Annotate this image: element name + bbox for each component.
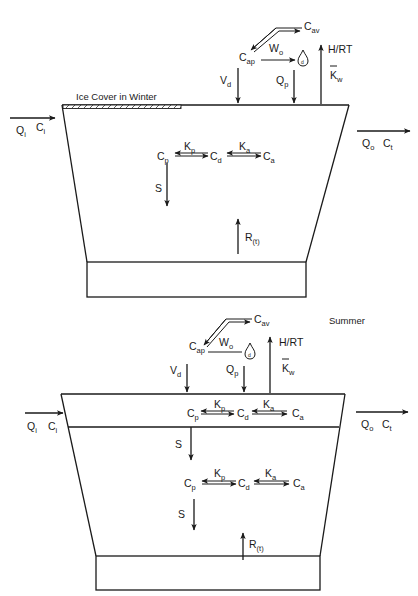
inflow-q-label: Qi [16,124,26,139]
lake-model-diagram: Ice Cover in Winter Qi Ci Qo Ct Cav Cap … [0,0,418,596]
hrt-label: H/RT [328,43,353,55]
ice-cover-label: Ice Cover in Winter [76,91,157,102]
vd-label: Vd [170,364,181,379]
basin-left-wall [62,105,87,262]
wo-label: Wo [219,336,233,351]
cav-label: Cav [304,20,320,35]
vd-label: Vd [220,74,231,89]
sediment-layer [87,262,306,297]
ca-label: Ca [263,150,276,165]
rain-drop-glyph: d [301,59,304,65]
outflow-q-label: Qo [361,418,373,433]
sediment-layer [96,556,320,590]
r-label: R(t) [249,538,264,553]
epi-s-label: S [175,438,182,450]
inflow-c-label: Ci [48,420,58,435]
kw-label: Kw [282,362,295,377]
rain-drop-glyph: d [248,352,251,358]
outflow-c-label: Ct [383,137,394,152]
epi-cp-label: Cp [187,407,199,422]
outflow-c-label: Ct [382,418,393,433]
cd-label: Cd [210,150,222,165]
basin-right-wall [320,394,345,556]
epi-ca-label: Ca [292,407,305,422]
cp-label: Cp [157,150,169,165]
wo-label: Wo [269,42,283,57]
cap-label: Cap [239,51,255,66]
hypo-ka-label: Ka [265,467,277,482]
hypo-cp-label: Cp [184,477,196,492]
basin-left-wall [61,394,96,556]
cav-label: Cav [254,313,270,328]
inflow-q-label: Qi [27,420,37,435]
qp-label: Qp [276,74,288,89]
hypo-kp-label: Kp [214,467,225,482]
winter-panel: Ice Cover in Winter Qi Ci Qo Ct Cav Cap … [10,20,410,297]
summer-panel: Summer Qi Ci Qo Ct Cav Cap Wo d Vd Qp H/… [25,313,408,590]
kw-label: Kw [330,69,343,84]
basin-right-wall [306,105,349,262]
s-label: S [155,182,162,194]
hypo-cd-label: Cd [238,477,250,492]
outflow-q-label: Qo [362,137,374,152]
r-label: R(t) [245,231,260,246]
qp-label: Qp [226,363,238,378]
ice-cover-hatch [63,105,181,109]
hypo-s-label: S [178,508,185,520]
cap-label: Cap [189,340,205,355]
summer-label: Summer [329,315,365,326]
inflow-c-label: Ci [36,121,46,136]
hrt-label: H/RT [279,336,304,348]
epi-cd-label: Cd [237,407,249,422]
hypo-ca-label: Ca [293,477,306,492]
